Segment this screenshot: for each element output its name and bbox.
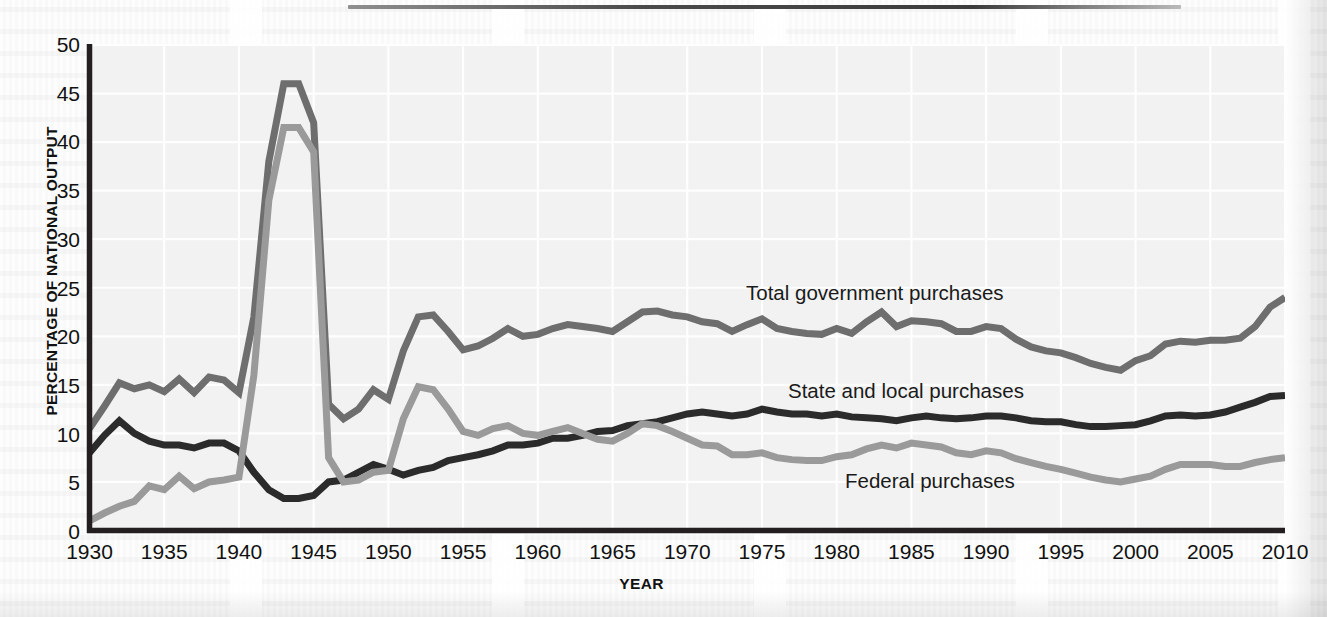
- x-tick-1935: 1935: [141, 540, 188, 564]
- series-label-state-and-local-purchases: State and local purchases: [788, 379, 1024, 403]
- series-label-federal-purchases: Federal purchases: [845, 469, 1015, 493]
- x-tick-1985: 1985: [888, 540, 935, 564]
- x-tick-2010: 2010: [1262, 540, 1309, 564]
- x-tick-1930: 1930: [66, 540, 113, 564]
- x-tick-1965: 1965: [589, 540, 636, 564]
- x-tick-1945: 1945: [290, 540, 337, 564]
- x-tick-1970: 1970: [664, 540, 711, 564]
- x-tick-1950: 1950: [365, 540, 412, 564]
- x-tick-1980: 1980: [813, 540, 860, 564]
- x-tick-2005: 2005: [1187, 540, 1234, 564]
- x-axis-title: YEAR: [0, 575, 1327, 593]
- chart-plot-area: [0, 0, 1327, 617]
- x-tick-1960: 1960: [514, 540, 561, 564]
- x-tick-2000: 2000: [1112, 540, 1159, 564]
- x-tick-1955: 1955: [440, 540, 487, 564]
- x-tick-1990: 1990: [963, 540, 1010, 564]
- x-tick-1975: 1975: [739, 540, 786, 564]
- x-tick-1995: 1995: [1037, 540, 1084, 564]
- x-tick-1940: 1940: [216, 540, 263, 564]
- series-label-total-government-purchases: Total government purchases: [746, 281, 1004, 305]
- figure-container: PERCENTAGE OF NATIONAL OUTPUT 50 45 40 3…: [0, 0, 1327, 617]
